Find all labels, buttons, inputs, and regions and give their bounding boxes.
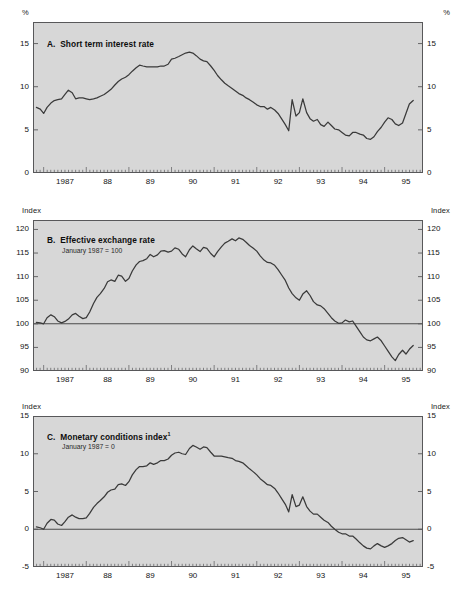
panel-a-xtick-89: 89 (146, 177, 155, 186)
panel-c-footnote-marker: 1 (167, 431, 170, 437)
panel-a-ytick-left-5: 5 (7, 125, 29, 134)
panel-b-ytick-right-95: 95 (427, 342, 449, 351)
panel-c-letter: C. (47, 432, 55, 442)
panel-c-xtick-93: 93 (316, 571, 325, 580)
panel-b-xtick-92: 92 (274, 375, 283, 384)
panel-a-xtick-92: 92 (274, 177, 283, 186)
panel-a-ytick-right-15: 15 (427, 39, 449, 48)
panel-a-ytick-right-5: 5 (427, 125, 449, 134)
panel-a-unit-right: % (443, 8, 450, 17)
panel-c-monetary-conditions-index: Index Index -5-5005510101515198788899091… (0, 402, 458, 595)
panel-b-unit-right: Index (431, 206, 450, 215)
panel-c-ytick-right-15: 15 (427, 411, 449, 420)
panel-b-xtick-1987: 1987 (56, 375, 74, 384)
panel-b-ytick-left-100: 100 (7, 319, 29, 328)
panel-b-xtick-89: 89 (146, 375, 155, 384)
panel-c-xtick-89: 89 (146, 571, 155, 580)
panel-a-xtick-94: 94 (359, 177, 368, 186)
panel-b-ytick-left-90: 90 (7, 366, 29, 375)
panel-c-xtick-88: 88 (103, 571, 112, 580)
panel-c-title-text: Monetary conditions index (60, 432, 167, 442)
panel-c-ytick-left-10: 10 (7, 449, 29, 458)
panel-c-ytick-left-0: 0 (7, 524, 29, 533)
panel-c-ytick-right-10: 10 (427, 449, 449, 458)
panel-c-xtick-94: 94 (359, 571, 368, 580)
panel-b-ytick-right-90: 90 (427, 366, 449, 375)
panel-c-ytick-left-15: 15 (7, 411, 29, 420)
panel-a-xtick-88: 88 (103, 177, 112, 186)
panel-a-ytick-right-0: 0 (427, 168, 449, 177)
panel-b-effective-exchange-rate: Index Index 9090959510010010510511011011… (0, 206, 458, 402)
panel-b-xtick-90: 90 (188, 375, 197, 384)
panel-a-xtick-90: 90 (188, 177, 197, 186)
panel-b-ytick-left-95: 95 (7, 342, 29, 351)
panel-a-title-text: Short term interest rate (60, 39, 154, 49)
panel-a-xtick-1987: 1987 (56, 177, 74, 186)
panel-a-unit-left: % (22, 8, 29, 17)
panel-b-ytick-left-105: 105 (7, 295, 29, 304)
panel-a-xtick-91: 91 (231, 177, 240, 186)
panel-b-xtick-95: 95 (401, 375, 410, 384)
panel-b-ytick-right-115: 115 (427, 248, 449, 257)
panel-c-ytick-left--5: -5 (7, 562, 29, 571)
panel-b-xtick-93: 93 (316, 375, 325, 384)
panel-a-letter: A. (47, 39, 55, 49)
panel-c-xtick-92: 92 (274, 571, 283, 580)
panel-c-xtick-1987: 1987 (56, 571, 74, 580)
panel-b-ytick-left-115: 115 (7, 248, 29, 257)
panel-c-unit-right: Index (431, 402, 450, 411)
figure-monetary-conditions: % % 00551010151519878889909192939495 A. … (0, 0, 458, 595)
panel-c-xtick-91: 91 (231, 571, 240, 580)
panel-b-unit-left: Index (22, 206, 41, 215)
panel-b-letter: B. (47, 235, 55, 245)
panel-a-xtick-95: 95 (401, 177, 410, 186)
panel-b-xtick-91: 91 (231, 375, 240, 384)
panel-a-xtick-93: 93 (316, 177, 325, 186)
panel-c-subtitle: January 1987 = 0 (62, 443, 115, 450)
panel-b-ytick-right-105: 105 (427, 295, 449, 304)
panel-b-title-text: Effective exchange rate (60, 235, 155, 245)
panel-a-ytick-left-0: 0 (7, 168, 29, 177)
panel-a-ytick-left-10: 10 (7, 82, 29, 91)
panel-b-title: B. Effective exchange rate (47, 235, 155, 245)
panel-c-ytick-right-5: 5 (427, 487, 449, 496)
panel-c-ytick-right--5: -5 (427, 562, 449, 571)
panel-b-ytick-right-100: 100 (427, 319, 449, 328)
panel-b-subtitle: January 1987 = 100 (62, 247, 122, 254)
panel-b-ytick-left-120: 120 (7, 224, 29, 233)
panel-b-ytick-left-110: 110 (7, 272, 29, 281)
panel-b-ytick-right-110: 110 (427, 272, 449, 281)
panel-a-title: A. Short term interest rate (47, 39, 154, 49)
panel-b-ytick-right-120: 120 (427, 224, 449, 233)
panel-a-ytick-left-15: 15 (7, 39, 29, 48)
panel-b-xtick-94: 94 (359, 375, 368, 384)
panel-c-xtick-95: 95 (401, 571, 410, 580)
panel-a-ytick-right-10: 10 (427, 82, 449, 91)
panel-c-ytick-right-0: 0 (427, 524, 449, 533)
panel-c-title: C. Monetary conditions index1 (47, 431, 171, 442)
panel-c-xtick-90: 90 (188, 571, 197, 580)
panel-c-ytick-left-5: 5 (7, 487, 29, 496)
panel-a-short-term-interest-rate: % % 00551010151519878889909192939495 A. … (0, 8, 458, 206)
panel-c-unit-left: Index (22, 402, 41, 411)
panel-b-xtick-88: 88 (103, 375, 112, 384)
